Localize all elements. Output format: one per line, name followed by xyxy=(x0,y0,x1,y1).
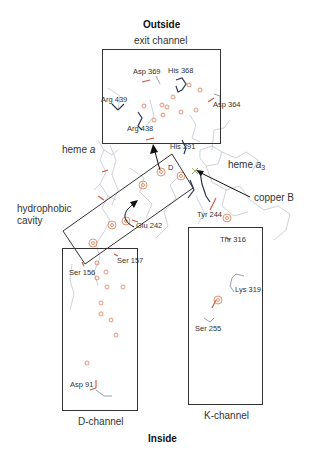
residue-tyr244: Tyr 244 xyxy=(197,210,222,219)
exit-channel-label: exit channel xyxy=(134,35,187,46)
hydrophobic-cavity-label-1: hydrophobic xyxy=(17,203,71,214)
residue-glu242: Glu 242 xyxy=(136,221,162,230)
outside-title: Outside xyxy=(143,19,180,30)
residue-asp369: Asp 369 xyxy=(133,67,161,76)
residue-ser157: Ser 157 xyxy=(117,256,143,265)
residue-his291: His 291 xyxy=(170,142,195,151)
d-pathway-arrow xyxy=(155,152,160,170)
residue-lys319: Lys 319 xyxy=(235,285,261,294)
arrowhead-curved xyxy=(130,200,138,208)
heme-a-prefix: heme xyxy=(62,144,90,155)
copper-b-label: copper B xyxy=(254,192,294,203)
residue-thr316: Thr 316 xyxy=(220,235,246,244)
heme-a-italic: a xyxy=(90,144,96,155)
residue-asp91: Asp 91 xyxy=(70,380,93,389)
acid-sidechains xyxy=(82,80,230,390)
residue-ser255: Ser 255 xyxy=(195,324,221,333)
residue-ser156: Ser 156 xyxy=(69,268,95,277)
residue-arg439: Arg 439 xyxy=(101,95,127,104)
inside-title: Inside xyxy=(148,433,177,444)
heme-a3-label: heme a3 xyxy=(228,159,265,171)
arrowhead-up xyxy=(150,144,158,154)
heme-a-label: heme a xyxy=(62,144,95,155)
d-marker-label: D xyxy=(168,163,173,172)
heme-a3-sub: 3 xyxy=(261,164,265,171)
k-channel-label: K-channel xyxy=(204,410,249,421)
d-channel-label: D-channel xyxy=(78,416,124,427)
heme-a3-prefix: heme xyxy=(228,159,256,170)
k-channel-box xyxy=(189,228,263,405)
water-molecules-double xyxy=(89,168,231,304)
hydrophobic-cavity-label-2: cavity xyxy=(17,215,43,226)
residue-his368: His 368 xyxy=(168,66,193,75)
residue-asp364: Asp 364 xyxy=(213,100,241,109)
copper-b-pointer xyxy=(199,172,250,197)
residue-arg438: Arg 438 xyxy=(127,124,153,133)
